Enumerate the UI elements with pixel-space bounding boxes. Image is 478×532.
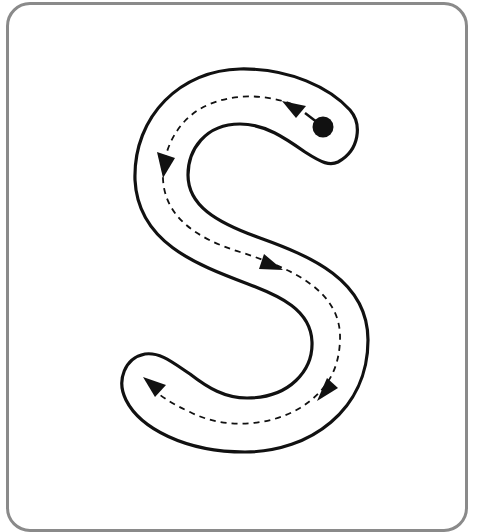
arrow-3-icon: [259, 254, 283, 270]
arrow-4-icon: [317, 378, 338, 401]
arrow-1-icon: [282, 101, 306, 118]
start-dot: [313, 117, 334, 138]
arrow-5-icon: [143, 377, 166, 397]
arrow-2-icon: [157, 152, 175, 178]
